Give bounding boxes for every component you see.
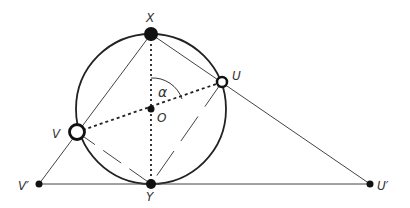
label-u: U (232, 69, 241, 83)
label-y: Y (146, 190, 155, 204)
point-u (217, 77, 227, 87)
label-o: O (157, 111, 166, 125)
point-v (70, 125, 85, 140)
line-x-uprime (151, 34, 370, 184)
point-x (144, 27, 158, 41)
point-o (148, 106, 155, 113)
label-v: V (52, 127, 61, 141)
point-v-prime (36, 181, 43, 188)
label-u-prime: U′ (377, 179, 389, 193)
line-x-vprime (39, 34, 151, 184)
geometry-diagram: X Y O U V V′ U′ α (0, 0, 410, 208)
chord-v-y (77, 132, 151, 184)
point-y (146, 179, 156, 189)
point-u-prime (367, 181, 374, 188)
label-v-prime: V′ (18, 179, 29, 193)
label-alpha: α (158, 84, 168, 100)
label-x: X (145, 11, 155, 25)
